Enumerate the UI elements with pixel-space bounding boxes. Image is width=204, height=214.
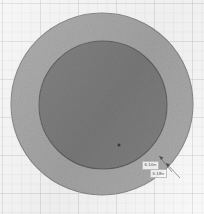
dimension-unit-outer: m — [153, 163, 156, 167]
diagram-canvas: 6.10m 5.18m — [0, 0, 204, 214]
inner-disc-circle — [39, 41, 167, 169]
dimension-label-inner: 5.18m — [150, 169, 167, 178]
dimension-unit-inner: m — [161, 172, 164, 176]
concentric-circles-figure — [0, 0, 204, 214]
point-marker-icon — [118, 144, 121, 147]
